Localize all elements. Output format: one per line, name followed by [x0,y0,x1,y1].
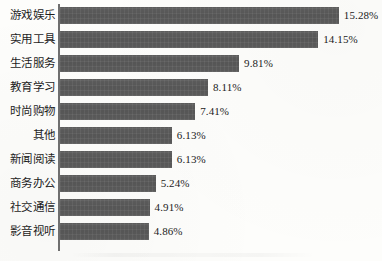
category-label: 其他 [0,127,55,144]
category-label: 教育学习 [0,79,55,96]
bar [60,79,208,96]
bar-row: 商务办公5.24% [0,175,382,192]
bar [60,31,318,48]
bar [60,55,239,72]
bar-value-label: 6.13% [177,151,206,168]
bar-value-label: 9.81% [244,55,273,72]
bar-value-label: 4.91% [155,199,184,216]
bar [60,223,149,240]
category-label: 实用工具 [0,31,55,48]
bar [60,175,156,192]
bar-value-label: 6.13% [177,127,206,144]
bar-value-label: 15.28% [344,7,379,24]
bar-chart: 游戏娱乐15.28%实用工具14.15%生活服务9.81%教育学习8.11%时尚… [0,0,382,261]
category-label: 新闻阅读 [0,151,55,168]
bar [60,127,172,144]
category-label: 生活服务 [0,55,55,72]
bar-row: 新闻阅读6.13% [0,151,382,168]
bar-value-label: 5.24% [161,175,190,192]
bar-row: 其他6.13% [0,127,382,144]
bar [60,151,172,168]
bar-value-label: 4.86% [154,223,183,240]
bar-value-label: 8.11% [213,79,242,96]
category-label: 时尚购物 [0,103,55,120]
bar-row: 生活服务9.81% [0,55,382,72]
bar-value-label: 14.15% [323,31,358,48]
bar [60,103,195,120]
bar-row: 游戏娱乐15.28% [0,7,382,24]
bar [60,7,339,24]
category-label: 影音视听 [0,223,55,240]
category-label: 游戏娱乐 [0,7,55,24]
bar [60,199,150,216]
scan-artifact [70,253,315,257]
bar-row: 影音视听4.86% [0,223,382,240]
category-label: 社交通信 [0,199,55,216]
bar-row: 时尚购物7.41% [0,103,382,120]
bar-row: 实用工具14.15% [0,31,382,48]
bar-row: 教育学习8.11% [0,79,382,96]
bar-row: 社交通信4.91% [0,199,382,216]
bar-value-label: 7.41% [200,103,229,120]
category-label: 商务办公 [0,175,55,192]
